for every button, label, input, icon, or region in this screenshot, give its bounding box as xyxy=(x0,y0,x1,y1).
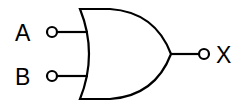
or-gate-diagram: A B X xyxy=(0,0,250,106)
or-gate-body xyxy=(80,9,171,99)
output-x-label: X xyxy=(216,42,231,68)
input-a-terminal xyxy=(47,27,57,37)
input-b-terminal xyxy=(47,71,57,81)
input-b-label: B xyxy=(15,64,30,90)
output-terminal xyxy=(199,49,209,59)
input-a-label: A xyxy=(15,20,31,46)
